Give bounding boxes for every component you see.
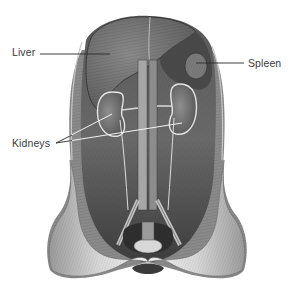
spleen-label: Spleen	[248, 57, 281, 69]
pelvis	[123, 222, 173, 254]
liver-label: Liver	[12, 46, 35, 58]
spleen	[185, 53, 207, 79]
kidneys-label: Kidneys	[12, 137, 50, 149]
